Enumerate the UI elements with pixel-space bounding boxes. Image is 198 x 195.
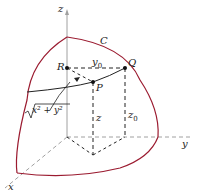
base-segment-2: [93, 137, 125, 155]
point-r-label: R: [57, 62, 65, 72]
y-axis-label: y: [182, 139, 188, 149]
point-r: [65, 66, 69, 70]
diagram-canvas: z C R Q P y0 z z0 x² + y² y x: [0, 0, 198, 195]
point-q-label: Q: [128, 58, 136, 68]
sqrt-expression: x² + y²: [32, 106, 63, 115]
x-axis: [5, 137, 67, 188]
segment-rp: [67, 68, 93, 82]
z0-subscript: 0: [133, 115, 137, 123]
point-p-label: P: [96, 83, 103, 93]
curve-c: [67, 37, 158, 137]
y0-label: y0: [92, 57, 102, 70]
y0-subscript: 0: [98, 62, 102, 70]
z-label: z: [96, 113, 101, 123]
x-axis-label: x: [8, 182, 14, 192]
pointer-arrow-icon: [74, 77, 80, 82]
z-axis-arrow-icon: [65, 9, 69, 15]
base-segment-1: [67, 137, 93, 155]
point-q: [123, 66, 127, 70]
z-axis-label: z: [58, 4, 63, 14]
diagram-svg: [0, 0, 198, 195]
point-p: [91, 80, 95, 84]
surface-edge-xy: [17, 137, 158, 176]
curve-c-label: C: [100, 36, 108, 46]
z0-label: z0: [128, 110, 138, 123]
